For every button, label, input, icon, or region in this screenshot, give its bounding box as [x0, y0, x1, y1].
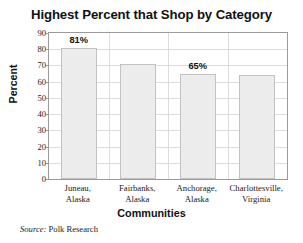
bar[interactable]	[180, 74, 216, 179]
x-tick-line-1: Charlottesville,	[221, 183, 293, 194]
bar-slot	[228, 33, 288, 179]
chart-title: Highest Percent that Shop by Category	[0, 7, 303, 22]
bar-slot	[109, 33, 169, 179]
y-axis-ticks: 9080706050403020100	[24, 32, 46, 180]
y-tick-label: 50	[26, 94, 46, 102]
plot-area: 81%65%	[48, 32, 288, 180]
y-axis-label: Percent	[7, 44, 19, 124]
bar-slot: 81%	[49, 33, 109, 179]
x-tick-label: Charlottesville,Virginia	[221, 183, 293, 205]
y-tick-label: 80	[26, 45, 46, 53]
bar[interactable]	[239, 75, 275, 179]
y-tick-label: 20	[26, 143, 46, 151]
y-tick-label: 10	[26, 159, 46, 167]
bar-value-label: 81%	[49, 35, 109, 45]
y-tick-label: 0	[26, 175, 46, 183]
y-tick-label: 30	[26, 126, 46, 134]
y-tick-label: 90	[26, 29, 46, 37]
source-label: Source:	[20, 224, 46, 234]
bar[interactable]	[61, 48, 97, 179]
y-tick-label: 60	[26, 78, 46, 86]
bar[interactable]	[120, 64, 156, 179]
y-tick-label: 70	[26, 61, 46, 69]
source-value: Polk Research	[46, 224, 98, 234]
bar-slot: 65%	[168, 33, 228, 179]
bar-value-label: 65%	[168, 61, 228, 71]
y-tick-label: 40	[26, 110, 46, 118]
x-axis-label: Communities	[0, 207, 303, 219]
source-note: Source: Polk Research	[20, 224, 98, 234]
chart-figure: Highest Percent that Shop by Category Pe…	[0, 0, 303, 243]
x-tick-line-2: Virginia	[221, 194, 293, 205]
x-axis-ticks: Juneau,AlaskaFairbanks,AlaskaAnchorage,A…	[48, 183, 288, 209]
